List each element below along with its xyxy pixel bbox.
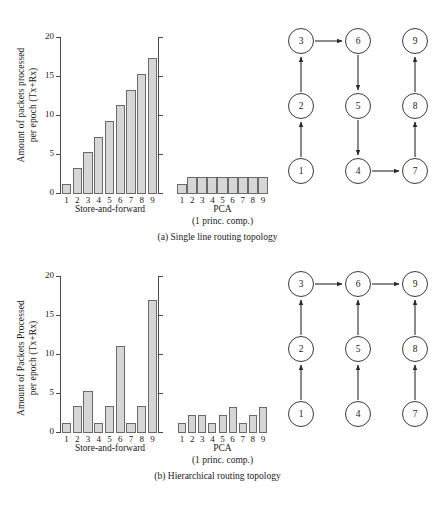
panel-a-ytick-10 (56, 115, 60, 116)
panel-b-yticklabel-10: 10 (34, 348, 54, 358)
graph-node-7: 7 (402, 401, 428, 427)
panel-b-yticklabel-20: 20 (34, 270, 54, 280)
panel-b-yticklabel-0: 0 (34, 426, 54, 436)
graph-node-6: 6 (345, 28, 371, 54)
graph-node-5: 5 (345, 336, 371, 362)
bar (62, 423, 71, 433)
panel-a-store-and-forward-label: Store-and-forward (48, 204, 172, 214)
bar (126, 90, 135, 194)
panel-b-ytick-20 (56, 276, 60, 277)
bar (219, 415, 227, 433)
panel-a-ytick-5 (56, 154, 60, 155)
bar (73, 406, 82, 433)
bar (239, 423, 247, 433)
panel-a-topology-graph: 123456789 (288, 28, 428, 198)
panel-a-ytick-15 (56, 76, 60, 77)
graph-node-8: 8 (402, 336, 428, 362)
bar (116, 346, 125, 433)
panel-b-pca-bars (177, 276, 268, 433)
bar (197, 177, 207, 194)
panel-a-right-tick-10 (159, 115, 163, 116)
bar (83, 152, 92, 194)
panel-b-pca-label: PCA (177, 443, 268, 453)
graph-node-4: 4 (345, 158, 371, 184)
panel-b-y-axis-label-line1: Amount of Packets Processed (16, 273, 28, 443)
bar (83, 391, 92, 433)
panel-b: Amount of Packets Processed per epoch (T… (0, 253, 435, 506)
bar (137, 74, 146, 194)
graph-node-4: 4 (345, 401, 371, 427)
panel-a-ytick-20 (56, 37, 60, 38)
bar (228, 177, 238, 194)
graph-node-9: 9 (402, 271, 428, 297)
panel-a-yticklabel-5: 5 (34, 148, 54, 158)
bar (177, 184, 187, 194)
panel-a-y-axis-label: Amount of packets processed per epoch (T… (16, 20, 46, 190)
bar (105, 121, 114, 194)
graph-node-7: 7 (402, 158, 428, 184)
bar (94, 137, 103, 194)
panel-b-y-axis-label: Amount of Packets Processed per epoch (T… (16, 273, 46, 443)
panel-b-right-tick-20 (159, 276, 163, 277)
panel-a-ytick-0 (56, 193, 60, 194)
panel-a-right-tick-15 (159, 76, 163, 77)
panel-b-yticklabel-5: 5 (34, 387, 54, 397)
bar (148, 58, 157, 194)
graph-node-3: 3 (288, 28, 314, 54)
panel-b-ytick-15 (56, 315, 60, 316)
bar (137, 406, 146, 433)
bar (248, 177, 258, 194)
panel-b-caption: (b) Hierarchical routing topology (0, 471, 435, 481)
graph-node-5: 5 (345, 93, 371, 119)
panel-b-ytick-10 (56, 354, 60, 355)
panel-b-right-tick-15 (159, 315, 163, 316)
graph-node-1: 1 (288, 158, 314, 184)
graph-node-2: 2 (288, 336, 314, 362)
panel-b-pca-sublabel: (1 princ. comp.) (157, 455, 288, 465)
bar (208, 423, 216, 433)
bar (259, 407, 267, 433)
panel-a-yticklabel-10: 10 (34, 109, 54, 119)
panel-a-yticklabel-20: 20 (34, 31, 54, 41)
panel-b-right-tick-0 (159, 432, 163, 433)
panel-a-caption: (a) Single line routing topology (0, 232, 435, 242)
graph-node-9: 9 (402, 28, 428, 54)
bar (126, 423, 135, 433)
graph-node-1: 1 (288, 401, 314, 427)
panel-a-pca-bars (177, 37, 268, 194)
bar (148, 300, 157, 433)
bar (229, 407, 237, 433)
graph-node-6: 6 (345, 271, 371, 297)
panel-a-yticklabel-15: 15 (34, 70, 54, 80)
bar (73, 168, 82, 194)
bar (188, 415, 196, 433)
panel-b-right-tick-5 (159, 393, 163, 394)
panel-a-pca-sublabel: (1 princ. comp.) (157, 216, 288, 226)
bar (198, 415, 206, 433)
panel-b-yticklabel-15: 15 (34, 309, 54, 319)
graph-node-3: 3 (288, 271, 314, 297)
panel-b-right-tick-10 (159, 354, 163, 355)
figure-root: Amount of packets processed per epoch (T… (0, 0, 435, 506)
panel-b-topology-graph: 123456789 (288, 271, 428, 441)
panel-b-store-and-forward-label: Store-and-forward (48, 443, 172, 453)
bar (258, 177, 268, 194)
panel-a-right-tick-20 (159, 37, 163, 38)
panel-a-y-axis-label-line2: per epoch (Tx+Rx) (28, 20, 40, 190)
bar (187, 177, 197, 194)
panel-a-right-tick-0 (159, 193, 163, 194)
panel-a-yticklabel-0: 0 (34, 187, 54, 197)
bar (238, 177, 248, 194)
panel-a-y-axis-label-line1: Amount of packets processed (16, 20, 28, 190)
bar (178, 423, 186, 433)
bar (217, 177, 227, 194)
panel-b-y-axis-label-line2: per epoch (Tx+Rx) (28, 273, 40, 443)
panel-a-store-and-forward-bars (61, 37, 158, 194)
panel-a-pca-label: PCA (177, 204, 268, 214)
panel-a-right-tick-5 (159, 154, 163, 155)
bar (94, 423, 103, 433)
graph-node-8: 8 (402, 93, 428, 119)
panel-b-store-and-forward-bars (61, 276, 158, 433)
bar (249, 415, 257, 433)
panel-b-ytick-5 (56, 393, 60, 394)
